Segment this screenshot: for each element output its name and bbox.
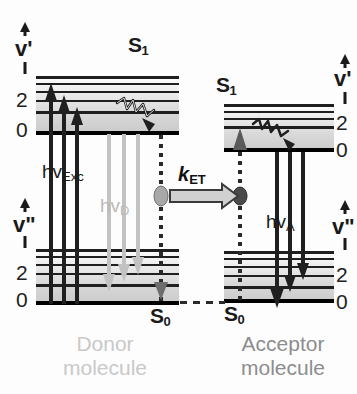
- donor-vdprime-axis-label: v": [13, 214, 36, 236]
- donor-caption-line1: Donor: [40, 332, 170, 356]
- donor-vprime-axis-tick: [24, 62, 27, 74]
- donor-emission-arrowhead: [103, 274, 115, 292]
- acceptor-s0-label: S0: [224, 303, 244, 324]
- donor-absorption-arrowhead: [58, 95, 70, 113]
- donor-relaxation-arrowhead: [142, 118, 155, 132]
- acceptor-emission-arrowhead: [284, 275, 296, 292]
- acceptor-vdprime-axis-stem: [344, 206, 347, 214]
- donor-ground-return-arrowhead: [154, 282, 168, 300]
- acceptor-caption-line1: Acceptor: [218, 332, 348, 356]
- donor-vprime-tick-2: 2: [16, 89, 28, 110]
- acceptor-vibrational-relaxation-squiggle: [253, 119, 288, 136]
- donor-vdprime-axis-tick: [24, 236, 27, 248]
- donor-s0-label: S0: [150, 305, 170, 326]
- donor-molecule-caption: Donor molecule: [40, 332, 170, 379]
- energy-transfer-arrow: [170, 184, 238, 208]
- acceptor-vprime-tick-2: 2: [336, 112, 348, 133]
- acceptor-vprime-tick-0: 0: [336, 139, 348, 160]
- donor-caption-line2: molecule: [40, 356, 170, 380]
- donor-vprime-axis-label: v': [15, 38, 32, 60]
- acceptor-vdprime-tick-0: 0: [336, 291, 348, 312]
- acceptor-molecule-caption: Acceptor molecule: [218, 332, 348, 379]
- donor-emission-arrowhead: [132, 257, 144, 275]
- donor-absorption-arrowhead: [45, 83, 57, 101]
- donor-vdprime-tick-0: 0: [16, 289, 28, 310]
- fret-energy-diagram: S1 S0 S1 S0 v' 2 0 v" 2 0 v' 2 0 v" 2 0 …: [0, 0, 357, 394]
- acceptor-emission-arrowhead: [297, 263, 309, 280]
- acceptor-excitation-arrowhead: [233, 128, 247, 150]
- acceptor-s1-label: S1: [216, 74, 236, 95]
- acceptor-vprime-axis-tick: [344, 92, 347, 104]
- acceptor-vprime-axis-label: v': [334, 68, 351, 90]
- donor-vprime-tick-0: 0: [16, 119, 28, 140]
- donor-transfer-node: [154, 186, 168, 206]
- acceptor-relaxation-arrowhead: [283, 138, 295, 151]
- donor-absorption-label: hvExc: [42, 162, 84, 181]
- donor-vdprime-axis-stem: [24, 204, 27, 212]
- acceptor-emission-arrowhead: [270, 288, 284, 308]
- donor-absorption-arrowhead: [71, 107, 83, 125]
- donor-emission-arrowhead: [118, 264, 130, 282]
- donor-vibrational-relaxation-squiggle: [117, 98, 154, 116]
- donor-vprime-axis-stem: [24, 28, 27, 36]
- acceptor-emission-label: hvA: [266, 212, 295, 231]
- donor-s1-label: S1: [128, 34, 148, 55]
- acceptor-vdprime-tick-2: 2: [336, 264, 348, 285]
- donor-emission-label: hvD: [100, 196, 129, 215]
- donor-vdprime-tick-2: 2: [16, 262, 28, 283]
- acceptor-vdprime-axis-label: v": [332, 216, 355, 238]
- acceptor-caption-line2: molecule: [218, 356, 348, 380]
- acceptor-vdprime-axis-tick: [344, 238, 347, 250]
- energy-transfer-rate-label: kET: [178, 164, 206, 184]
